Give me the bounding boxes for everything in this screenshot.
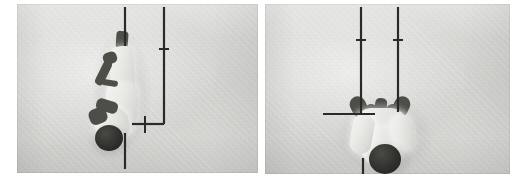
right-photo-border (265, 4, 510, 174)
left-photograph (17, 4, 258, 173)
figure-root (0, 0, 527, 181)
left-photo-border (17, 4, 258, 173)
right-photograph (265, 4, 510, 174)
